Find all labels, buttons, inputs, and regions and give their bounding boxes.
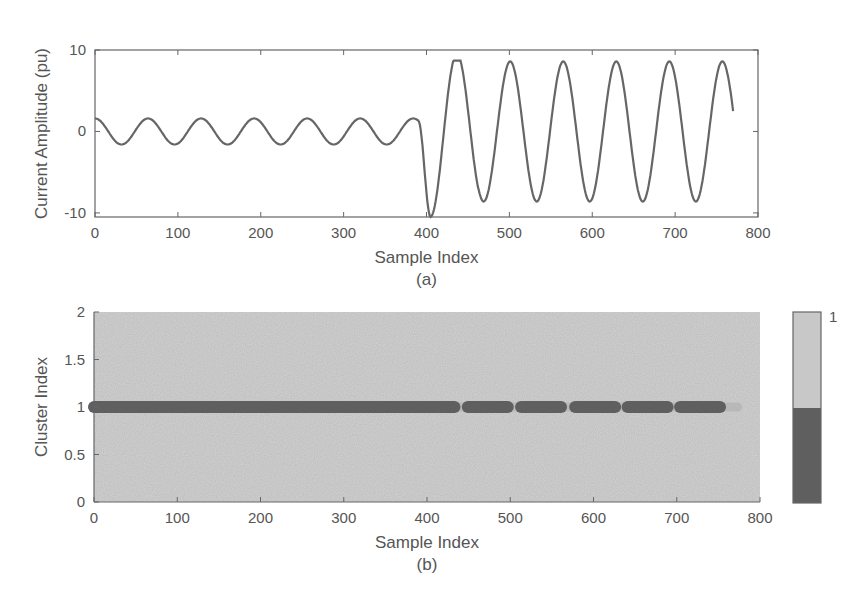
x-tick-label-b: 100 bbox=[165, 509, 190, 526]
caption-a: (a) bbox=[416, 270, 437, 289]
x-tick-label-b: 200 bbox=[248, 509, 273, 526]
colorbar: 1 bbox=[793, 308, 837, 503]
x-tick-label-a: 400 bbox=[414, 224, 439, 241]
y-tick-label-b: 0.5 bbox=[64, 446, 85, 463]
y-tick-label-b: 1.5 bbox=[64, 351, 85, 368]
y-axis-label-a: Current Amplitude (pu) bbox=[32, 48, 51, 219]
x-tick-label-a: 100 bbox=[165, 224, 190, 241]
x-axis-label-b: Sample Index bbox=[375, 533, 479, 552]
x-tick-label-a: 800 bbox=[745, 224, 770, 241]
x-tick-label-a: 0 bbox=[91, 224, 99, 241]
y-tick-label-a: -10 bbox=[64, 204, 86, 221]
x-tick-label-b: 600 bbox=[581, 509, 606, 526]
panel-a: 0100200300400500600700800100-10Sample In… bbox=[32, 41, 771, 289]
x-tick-label-b: 800 bbox=[747, 509, 772, 526]
caption-b: (b) bbox=[417, 555, 438, 574]
x-tick-label-b: 0 bbox=[90, 509, 98, 526]
y-tick-label-b: 2 bbox=[77, 303, 85, 320]
y-tick-label-a: 0 bbox=[78, 122, 86, 139]
x-tick-label-b: 300 bbox=[331, 509, 356, 526]
colorbar-dark bbox=[793, 408, 821, 503]
x-tick-label-a: 300 bbox=[331, 224, 356, 241]
x-tick-label-a: 600 bbox=[580, 224, 605, 241]
x-tick-label-a: 500 bbox=[497, 224, 522, 241]
y-tick-label-a: 10 bbox=[69, 41, 86, 58]
colorbar-light bbox=[793, 312, 821, 408]
figure: 0100200300400500600700800100-10Sample In… bbox=[0, 0, 861, 613]
colorbar-tick-label: 1 bbox=[829, 308, 837, 325]
y-tick-label-b: 0 bbox=[77, 493, 85, 510]
x-tick-label-a: 700 bbox=[663, 224, 688, 241]
panel-b: 010020030040050060070080000.511.52Sample… bbox=[32, 303, 773, 574]
y-tick-label-b: 1 bbox=[77, 398, 85, 415]
x-tick-label-b: 700 bbox=[664, 509, 689, 526]
x-tick-label-b: 400 bbox=[414, 509, 439, 526]
y-axis-label-b: Cluster Index bbox=[32, 356, 51, 457]
x-tick-label-b: 500 bbox=[498, 509, 523, 526]
x-axis-label-a: Sample Index bbox=[375, 248, 479, 267]
x-tick-label-a: 200 bbox=[248, 224, 273, 241]
